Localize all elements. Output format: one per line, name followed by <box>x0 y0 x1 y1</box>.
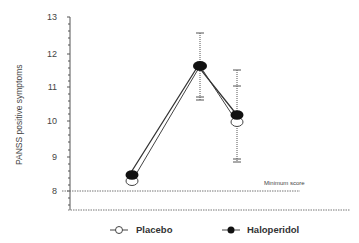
legend-placebo: Placebo <box>136 224 173 235</box>
y-axis-label: PANSS positive symptoms <box>14 65 24 165</box>
error-bars <box>196 33 241 162</box>
haloperidol-legend-icon <box>228 227 235 234</box>
svg-text:9: 9 <box>52 152 57 162</box>
svg-text:12: 12 <box>47 49 57 59</box>
svg-text:8: 8 <box>52 186 57 196</box>
legend: Placebo Haloperidol <box>110 224 299 235</box>
haloperidol-point-1 <box>126 170 139 180</box>
chart: 13 12 11 10 9 8 PANSS positive symptoms … <box>0 0 359 243</box>
y-tick-labels: 13 12 11 10 9 8 <box>47 12 57 196</box>
legend-haloperidol: Haloperidol <box>247 224 299 235</box>
haloperidol-point-2 <box>193 61 207 71</box>
placebo-line <box>132 66 237 181</box>
svg-text:13: 13 <box>47 12 57 22</box>
haloperidol-point-3 <box>231 110 244 120</box>
minimum-score-label: Minimum score <box>264 180 305 186</box>
svg-text:10: 10 <box>47 116 57 126</box>
placebo-legend-icon <box>116 227 123 234</box>
svg-text:11: 11 <box>48 82 57 92</box>
